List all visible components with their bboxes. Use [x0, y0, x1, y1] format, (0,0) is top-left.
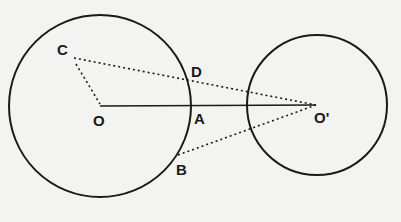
- segment-c-o: [76, 64, 100, 104]
- segment-o-oprime: [100, 105, 316, 106]
- label-a: A: [194, 110, 205, 127]
- label-b: B: [176, 161, 187, 178]
- label-c: C: [57, 41, 68, 58]
- geometry-figure: C O D A B O': [0, 0, 401, 222]
- label-d: D: [191, 63, 202, 80]
- diagram-canvas: C O D A B O': [0, 0, 401, 222]
- label-o-prime: O': [314, 109, 329, 126]
- label-o: O: [93, 112, 105, 129]
